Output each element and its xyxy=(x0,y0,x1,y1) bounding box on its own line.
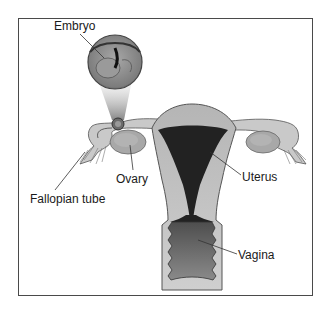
vagina-label: Vagina xyxy=(238,248,274,262)
embryo-label: Embryo xyxy=(54,19,95,33)
vagina xyxy=(168,222,216,280)
fallopian-tube-leader-line xyxy=(55,152,85,190)
embryo-magnified-view xyxy=(88,35,142,89)
ovary-label: Ovary xyxy=(116,172,148,186)
left-ovary xyxy=(110,130,146,154)
fallopian-tube-label: Fallopian tube xyxy=(30,192,105,206)
ectopic-embryo-in-tube xyxy=(112,118,124,130)
uterus-label: Uterus xyxy=(242,170,277,184)
right-ovary xyxy=(246,131,280,153)
reproductive-anatomy-illustration xyxy=(0,0,329,313)
